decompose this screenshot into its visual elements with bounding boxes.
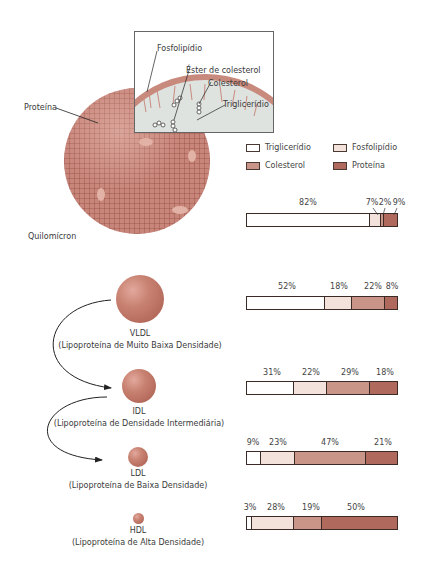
conversion-arrows bbox=[0, 0, 424, 565]
